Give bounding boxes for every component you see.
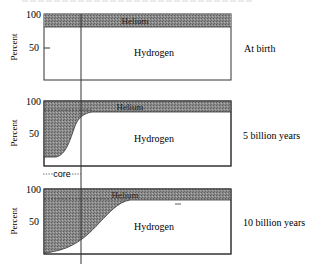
tick-label-100: 100 xyxy=(26,9,41,20)
stage-label: 5 billion years xyxy=(243,130,300,141)
helium-label: Helium xyxy=(112,190,139,200)
helium-label: Helium xyxy=(117,102,144,112)
tick-label-50: 50 xyxy=(29,216,39,227)
stellar-composition-diagram: 100 50 Percent Helium Hydrogen At birth … xyxy=(0,0,312,264)
y-axis-label: Percent xyxy=(9,33,19,60)
hydrogen-label: Hydrogen xyxy=(134,47,174,58)
helium-label: Helium xyxy=(122,16,149,26)
hydrogen-label: Hydrogen xyxy=(134,221,174,232)
tick-label-50: 50 xyxy=(29,128,39,139)
panel-5-billion-years: 100 50 Percent Helium Hydrogen 5 billion… xyxy=(9,96,300,179)
y-axis-label: Percent xyxy=(9,119,19,146)
stage-label: At birth xyxy=(244,43,275,54)
core-label: core xyxy=(53,169,71,179)
tick-label-100: 100 xyxy=(26,96,41,107)
tick-label-100: 100 xyxy=(26,184,41,195)
stage-label: 10 billion years xyxy=(243,217,305,228)
panel-at-birth: 100 50 Percent Helium Hydrogen At birth xyxy=(9,9,275,80)
hydrogen-label: Hydrogen xyxy=(134,133,174,144)
tick-label-50: 50 xyxy=(29,42,39,53)
y-axis-label: Percent xyxy=(9,207,19,234)
panel-10-billion-years: 100 50 Percent Helium Hydrogen 10 billio… xyxy=(9,184,305,254)
